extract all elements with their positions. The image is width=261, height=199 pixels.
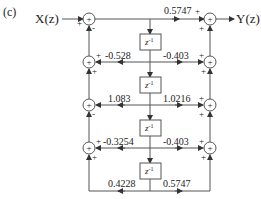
sign: + — [199, 136, 204, 146]
adder-sign: + — [86, 143, 91, 153]
adder-sign: + — [86, 57, 91, 67]
output-label: Y(z) — [236, 11, 260, 26]
input-label: X(z) — [35, 11, 59, 26]
sign: + — [96, 50, 101, 60]
sign: - — [92, 109, 95, 119]
coef-top: 0.5747 — [164, 5, 192, 16]
sign: + — [199, 50, 204, 60]
adder-sign: + — [207, 100, 212, 110]
sign: + — [199, 109, 204, 119]
adder-sign: + — [207, 57, 212, 67]
adder-sign: + — [86, 100, 91, 110]
sign: - — [92, 23, 95, 33]
coef-row3-right: -0.403 — [163, 136, 189, 147]
coef-row1-left: -0.528 — [105, 50, 131, 61]
sign: + — [92, 152, 97, 162]
sign: + — [195, 6, 200, 16]
coef-bottom-right: 0.5747 — [163, 178, 191, 189]
figure-label: (c) — [3, 5, 16, 19]
coef-row2-left: 1.083 — [108, 93, 131, 104]
sign: + — [199, 93, 204, 103]
coef-row2-right: 1.0216 — [163, 93, 191, 104]
coef-row1-right: -0.403 — [163, 50, 189, 61]
adder-sign: + — [86, 14, 91, 24]
sign: + — [96, 136, 101, 146]
sign: + — [201, 66, 206, 76]
adder-sign: + — [207, 143, 212, 153]
coef-bottom-left: 0.4228 — [108, 178, 136, 189]
lattice-filter-diagram: + + + + + + + + z-1 z-1 z-1 z-1 (c) X(z)… — [0, 0, 261, 199]
sign: + — [199, 23, 204, 33]
sign: + — [92, 66, 97, 76]
sign: + — [77, 18, 82, 28]
sign: + — [201, 152, 206, 162]
adder-sign: + — [207, 14, 212, 24]
coef-row3-left: -0.3254 — [103, 136, 134, 147]
